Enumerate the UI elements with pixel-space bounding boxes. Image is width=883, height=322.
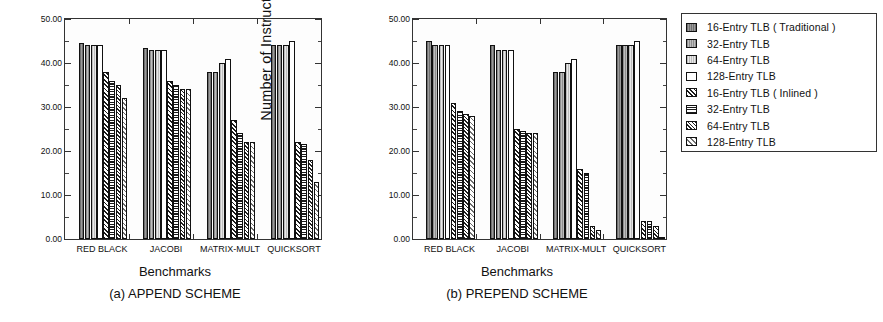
bar-group xyxy=(490,19,539,239)
bar xyxy=(577,169,583,239)
legend-swatch-light-diagonal-icon xyxy=(686,137,697,146)
bar xyxy=(225,59,231,239)
y-tick-mark xyxy=(65,63,71,64)
y-tick-mark xyxy=(413,19,419,20)
bar xyxy=(213,72,219,239)
bar xyxy=(250,142,256,239)
bar xyxy=(469,116,475,239)
y-tick-label: 20.00 xyxy=(372,146,410,156)
legend-swatch-solid-dark-gray-icon xyxy=(686,23,697,32)
bar xyxy=(314,182,320,239)
bar xyxy=(439,45,445,239)
y-tick-label: 50.00 xyxy=(372,14,410,24)
bar xyxy=(97,45,103,239)
bar xyxy=(283,45,289,239)
bar xyxy=(622,45,628,239)
bar xyxy=(628,45,634,239)
bar xyxy=(237,133,243,239)
x-tick-mark xyxy=(540,234,541,239)
bar xyxy=(143,48,149,239)
x-tick-mark xyxy=(193,19,194,24)
bar xyxy=(426,41,432,239)
y-tick-label: 10.00 xyxy=(24,190,62,200)
legend-item-label: 64-Entry TLB xyxy=(707,54,770,66)
bar xyxy=(122,98,128,239)
bar xyxy=(180,89,186,239)
y-tick-label: 40.00 xyxy=(372,58,410,68)
bar xyxy=(634,41,640,239)
bar xyxy=(596,230,602,239)
y-tick-label: 30.00 xyxy=(372,102,410,112)
bar-group xyxy=(616,19,665,239)
legend-item[interactable]: 64-Entry TLB xyxy=(686,117,876,133)
bar xyxy=(571,59,577,239)
bar xyxy=(167,81,173,239)
bar xyxy=(565,63,571,239)
bar xyxy=(308,160,314,239)
x-category-label: QUICKSORT xyxy=(267,244,320,254)
bar xyxy=(103,72,109,239)
bar xyxy=(79,43,85,239)
legend-swatch-solid-mid-gray-icon xyxy=(686,39,697,48)
y-tick-mark xyxy=(65,19,71,20)
x-tick-mark xyxy=(193,234,194,239)
bar xyxy=(219,63,225,239)
bar xyxy=(520,131,526,239)
y-tick-label: 10.00 xyxy=(372,190,410,200)
y-tick-mark xyxy=(413,63,419,64)
legend-box: 16-Entry TLB ( Traditional )32-Entry TLB… xyxy=(681,13,877,152)
legend-item[interactable]: 16-Entry TLB ( Traditional ) xyxy=(686,19,876,35)
legend-item[interactable]: 128-Entry TLB xyxy=(686,134,876,150)
x-tick-mark xyxy=(476,234,477,239)
bar xyxy=(647,221,653,239)
legend-item[interactable]: 32-Entry TLB xyxy=(686,101,876,117)
x-category-label: JACOBI xyxy=(150,244,183,254)
bar xyxy=(244,142,250,239)
bar xyxy=(301,144,307,239)
legend-item-label: 16-Entry TLB ( Traditional ) xyxy=(707,21,836,33)
x-tick-mark xyxy=(603,19,604,24)
legend-item[interactable]: 16-Entry TLB ( Inlined ) xyxy=(686,85,876,101)
y-tick-mark-minor xyxy=(65,41,69,42)
y-tick-mark-minor xyxy=(413,173,417,174)
y-axis-title: Number of Instructions Flushed xyxy=(258,0,276,122)
bar-group xyxy=(271,19,320,239)
bar xyxy=(445,45,451,239)
x-category-label: JACOBI xyxy=(497,244,530,254)
bar xyxy=(590,226,596,239)
bar xyxy=(173,85,179,239)
bar xyxy=(457,111,463,239)
legend-item[interactable]: 128-Entry TLB xyxy=(686,68,876,84)
legend-swatch-diagonal-hatch-icon xyxy=(686,88,697,97)
legend-item-label: 64-Entry TLB xyxy=(707,120,770,132)
legend-swatch-solid-light-gray-icon xyxy=(686,55,697,64)
bar xyxy=(149,50,155,239)
chart-panel-prepend-scheme: Number of Instructions Flushed 0.0010.00… xyxy=(352,0,682,322)
plot-area-prepend: 0.0010.0020.0030.0040.0050.00 xyxy=(412,18,667,240)
x-category-label: RED BLACK xyxy=(76,244,127,254)
legend-swatch-solid-white-icon xyxy=(686,72,697,81)
bar xyxy=(496,50,502,239)
y-tick-mark xyxy=(65,151,71,152)
y-tick-mark xyxy=(65,195,71,196)
legend-item-label: 32-Entry TLB xyxy=(707,103,770,115)
bar xyxy=(231,120,237,239)
bar xyxy=(161,50,167,239)
figure-two-bar-charts: Number of Instructions Flushed 0.0010.00… xyxy=(0,0,883,322)
y-tick-label: 0.00 xyxy=(24,234,62,244)
y-tick-mark-minor xyxy=(413,217,417,218)
plot-area-append: 0.0010.0020.0030.0040.0050.00 xyxy=(64,18,322,240)
y-tick-mark xyxy=(315,239,321,240)
legend-item[interactable]: 32-Entry TLB xyxy=(686,35,876,51)
x-axis-title: Benchmarks xyxy=(352,264,682,279)
legend-item[interactable]: 64-Entry TLB xyxy=(686,52,876,68)
y-tick-mark-minor xyxy=(65,217,69,218)
legend-item-label: 128-Entry TLB xyxy=(707,136,776,148)
y-tick-mark xyxy=(413,239,419,240)
bar xyxy=(514,129,520,239)
bar xyxy=(508,50,514,239)
bar xyxy=(616,45,622,239)
y-tick-mark-minor xyxy=(65,85,69,86)
bar xyxy=(85,45,91,239)
x-category-label: MATRIX-MULT xyxy=(200,244,260,254)
